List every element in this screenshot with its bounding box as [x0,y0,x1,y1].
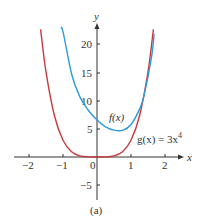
x-axis-arrow-icon [178,155,184,160]
x-axis-label: x [186,151,192,163]
y-axis-label: y [93,10,99,22]
f-curve-label: f(x) [109,111,125,124]
figure-caption: (a) [90,204,103,217]
x-tick-label: 2 [162,159,168,171]
x-tick-label: −2 [22,159,34,171]
y-tick-label: 15 [81,67,93,79]
x-tick-label: −1 [56,159,68,171]
x-tick-label: 0 [90,159,96,171]
y-axis: y 20 15 10 5 −5 [80,10,100,200]
x-axis: x −2 −1 0 1 2 [14,151,192,171]
g-curve-label: g(x) = 3x4 [137,131,182,146]
chart: x −2 −1 0 1 2 y 20 15 10 5 −5 f(x) g(x) … [0,0,203,218]
y-tick-label: 5 [87,123,93,135]
y-axis-arrow-icon [95,23,100,29]
g-curve-label-text: g(x) = 3x [137,133,179,146]
g-curve-label-exponent: 4 [178,131,182,140]
y-tick-label: −5 [80,179,92,191]
x-tick-label: 1 [128,159,134,171]
y-tick-label: 20 [81,38,93,50]
